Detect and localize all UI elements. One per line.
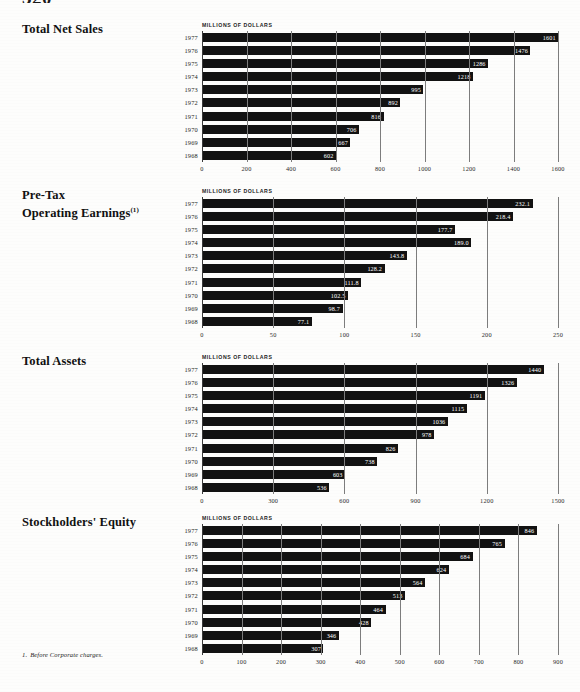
- x-tick-label-100: 100: [237, 658, 247, 665]
- bar: 624: [202, 565, 449, 574]
- bar-wrapper: 128.2: [202, 264, 558, 273]
- gridline-1600: [558, 31, 559, 162]
- bar-wrapper: 892: [202, 98, 558, 107]
- bar: 738: [202, 457, 377, 466]
- bar-value-label: 667: [338, 138, 348, 147]
- bar-row: 196877.1: [202, 315, 558, 328]
- bar-row: 1971816: [202, 110, 558, 123]
- chart-title-total-net-sales: Total Net Sales: [22, 22, 187, 37]
- x-tick-label-700: 700: [474, 658, 484, 665]
- bar-wrapper: 978: [202, 430, 558, 439]
- x-tick-label-1400: 1400: [507, 165, 520, 172]
- bar: 826: [202, 444, 398, 453]
- bar-row: 19771601: [202, 31, 558, 44]
- plot-pre-tax-operating-earnings: 1977232.11976218.41975177.71974189.01973…: [202, 197, 558, 328]
- bar-row: 1975177.7: [202, 223, 558, 236]
- bar-row: 1970706: [202, 123, 558, 136]
- bar-year-label: 1971: [174, 442, 198, 455]
- bar: 513: [202, 591, 405, 600]
- bar-row: 1973143.8: [202, 249, 558, 262]
- bar: 1286: [202, 59, 488, 68]
- bar-value-label: 189.0: [454, 238, 469, 247]
- bar-wrapper: 846: [202, 526, 558, 535]
- units-label: MILLIONS OF DOLLARS: [202, 354, 558, 361]
- bar-value-label: 98.7: [329, 304, 340, 313]
- bar-row: 1969346: [202, 629, 558, 642]
- bar: 1218: [202, 72, 473, 81]
- bar: 232.1: [202, 199, 533, 208]
- bar-row: 1976218.4: [202, 210, 558, 223]
- report-page: 320 Total Net Sales MILLIONS OF DOLLARS …: [0, 0, 580, 692]
- bar-value-label: 1218: [458, 72, 471, 81]
- gridline-250: [558, 197, 559, 328]
- bar: 102.5: [202, 291, 348, 300]
- bar-value-label: 564: [413, 578, 423, 587]
- bar-value-label: 232.1: [515, 199, 530, 208]
- x-tick-label-900: 900: [553, 658, 563, 665]
- bar: 564: [202, 578, 425, 587]
- bar-wrapper: 816: [202, 112, 558, 121]
- bar-row: 1977846: [202, 524, 558, 537]
- bar-value-label: 428: [359, 618, 369, 627]
- bar-value-label: 816: [371, 112, 381, 121]
- bar-row: 1971464: [202, 603, 558, 616]
- chart-area-stockholders-equity: MILLIONS OF DOLLARS 19778461976765197568…: [202, 515, 558, 670]
- bar-value-label: 826: [386, 444, 396, 453]
- bar-year-label: 1970: [174, 123, 198, 136]
- bar-rows: 1977846197676519756841974624197356419725…: [202, 524, 558, 655]
- bar: 111.8: [202, 278, 361, 287]
- bar-value-label: 603: [333, 470, 343, 479]
- bar-value-label: 892: [388, 98, 398, 107]
- x-tick-label-200: 200: [276, 658, 286, 665]
- bar-wrapper: 102.5: [202, 291, 558, 300]
- bar-value-label: 218.4: [496, 212, 511, 221]
- bar-year-label: 1969: [174, 302, 198, 315]
- bar-row: 19741218: [202, 70, 558, 83]
- bar-value-label: 536: [317, 483, 327, 492]
- bar-row: 1974624: [202, 563, 558, 576]
- bar-row: 196998.7: [202, 302, 558, 315]
- x-tick-label-800: 800: [513, 658, 523, 665]
- bar-row: 1970738: [202, 455, 558, 468]
- bar-year-label: 1977: [174, 363, 198, 376]
- bar-rows: 1977232.11976218.41975177.71974189.01973…: [202, 197, 558, 328]
- bar-row: 1972128.2: [202, 262, 558, 275]
- bar-row: 1969667: [202, 136, 558, 149]
- bar-year-label: 1976: [174, 376, 198, 389]
- bar-row: 19731036: [202, 415, 558, 428]
- bar-value-label: 102.5: [331, 291, 346, 300]
- bar: 1115: [202, 404, 467, 413]
- bar: 1191: [202, 391, 485, 400]
- bar-row: 1974189.0: [202, 236, 558, 249]
- bar: 602: [202, 151, 336, 160]
- bar: 1036: [202, 417, 448, 426]
- bar: 1601: [202, 33, 558, 42]
- bar-year-label: 1973: [174, 576, 198, 589]
- bar-year-label: 1972: [174, 428, 198, 441]
- bar: 218.4: [202, 212, 513, 221]
- bar-year-label: 1973: [174, 249, 198, 262]
- x-tick-label-100: 100: [339, 331, 349, 338]
- x-tick-label-1500: 1500: [551, 497, 564, 504]
- bar-wrapper: 177.7: [202, 225, 558, 234]
- bar-year-label: 1973: [174, 415, 198, 428]
- x-tick-label-0: 0: [200, 497, 203, 504]
- bar: 464: [202, 605, 386, 614]
- units-label: MILLIONS OF DOLLARS: [202, 188, 558, 195]
- x-tick-label-1600: 1600: [551, 165, 564, 172]
- bar-value-label: 346: [327, 631, 337, 640]
- bar: 995: [202, 85, 423, 94]
- bar-wrapper: 98.7: [202, 304, 558, 313]
- bar-year-label: 1975: [174, 57, 198, 70]
- chart-title-line-1: Pre-Tax: [22, 188, 65, 202]
- bar: 684: [202, 552, 473, 561]
- bar-value-label: 624: [437, 565, 447, 574]
- x-tick-label-1200: 1200: [462, 165, 475, 172]
- bar-row: 1968536: [202, 481, 558, 494]
- chart-title-pre-tax-operating-earnings: Pre-Tax Operating Earnings(1): [22, 188, 187, 221]
- bar-year-label: 1975: [174, 550, 198, 563]
- bar: 98.7: [202, 304, 343, 313]
- bar-wrapper: 111.8: [202, 278, 558, 287]
- bar: 1326: [202, 378, 517, 387]
- bar-row: 1973564: [202, 576, 558, 589]
